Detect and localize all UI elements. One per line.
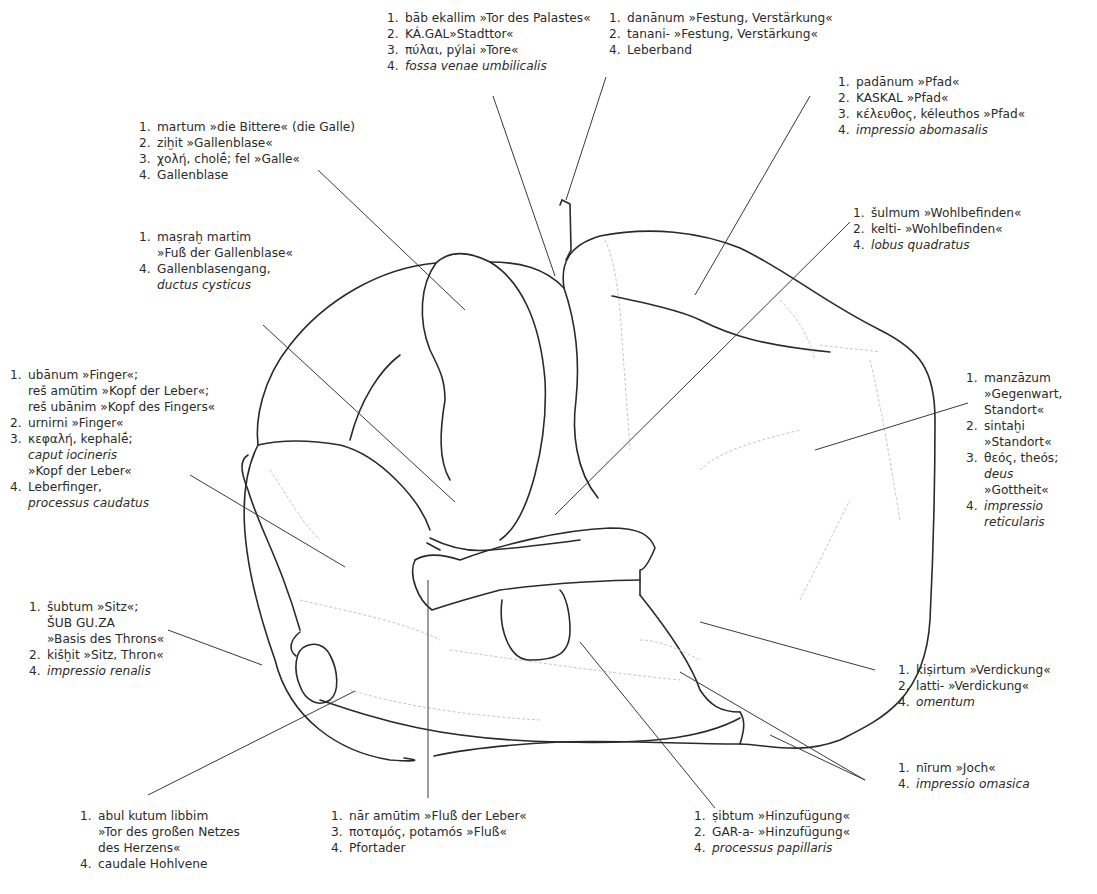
label-festung: 1.danānum »Festung, Verstärkung« 2.tanan… [609, 10, 833, 58]
label-gallenblase: 1.martum »die Bittere« (die Galle) 2.ziḫ… [139, 119, 355, 183]
label-pfad: 1.padānum »Pfad« 2.KASKAL »Pfad« 3.κέλευ… [838, 74, 1025, 138]
label-netz: 1.abul kutum libbim »Tor des großen Netz… [80, 808, 240, 872]
label-sitz: 1.šubtum »Sitz«; ŠUB GU.ZA »Basis des Th… [29, 599, 164, 679]
label-gallenblasengang: 1.maṣraḫ martim »Fuß der Gallenblase« 4.… [139, 229, 293, 293]
label-standort: 1.manzāzum »Gegenwart, Standort« 2.sinta… [966, 370, 1062, 530]
label-joch: 1.nīrum »Joch« 4.impressio omasica [898, 760, 1030, 792]
organ-outline [242, 200, 935, 761]
label-verdickung: 1.kiṣirtum »Verdickung« 2.latti- »Verdic… [898, 662, 1051, 710]
label-hinzufuegung: 1.ṣibtum »Hinzufügung« 2.GAR-a- »Hinzufü… [694, 808, 850, 856]
label-fluss: 1.nār amūtim »Fluß der Leber« 3.ποταμός,… [331, 808, 527, 856]
liver-diagram: 1.bāb ekallim »Tor des Palastes« 2.KÁ.GA… [0, 0, 1097, 894]
label-finger: 1.ubānum »Finger«; reš amūtim »Kopf der … [10, 367, 215, 511]
label-tor-des-palastes: 1.bāb ekallim »Tor des Palastes« 2.KÁ.GA… [387, 10, 591, 74]
label-wohlbefinden: 1.šulmum »Wohlbefinden« 2.kelti- »Wohlbe… [853, 205, 1022, 253]
